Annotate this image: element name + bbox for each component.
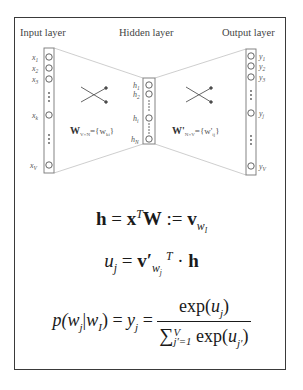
label-yj: yj xyxy=(258,109,265,119)
label-hi: hi xyxy=(133,114,139,124)
softmax-fraction: exp(uj) ∑Vj′=1 exp(uj′) xyxy=(157,296,250,348)
equation-score: uj = v′wjT · h xyxy=(14,250,289,277)
output-node xyxy=(248,110,254,116)
softmax-denominator: ∑Vj′=1 exp(uj′) xyxy=(157,321,250,349)
label-xk: xk xyxy=(31,111,39,121)
input-layer-column: x1 x2 x3 xk xV xyxy=(29,48,54,173)
output-node xyxy=(248,63,254,69)
cross-connection-icon-right xyxy=(186,87,212,104)
input-node xyxy=(46,65,52,71)
output-node xyxy=(248,74,254,80)
label-x2: x2 xyxy=(31,64,39,74)
label-yV: yV xyxy=(258,162,267,172)
label-y1: y1 xyxy=(258,52,266,62)
hidden-node xyxy=(146,115,152,121)
hidden-node xyxy=(146,91,152,97)
input-node xyxy=(46,76,52,82)
network-diagram: x1 x2 x3 xk xV h1 h2 hi hN xyxy=(0,0,303,200)
output-node xyxy=(248,163,254,169)
output-node xyxy=(248,53,254,59)
equation-softmax: p(wj|wI) = yj = exp(uj) ∑Vj′=1 exp(uj′) xyxy=(14,296,289,348)
label-hN: hN xyxy=(131,135,139,145)
label-x1: x1 xyxy=(31,53,39,63)
weight-matrix-hidden-output-label: W'N×V={w'ij} xyxy=(172,125,219,137)
softmax-numerator: exp(uj) xyxy=(157,296,250,321)
label-xV: xV xyxy=(29,161,38,171)
label-x3: x3 xyxy=(31,75,39,85)
label-y2: y2 xyxy=(258,62,266,72)
hidden-node xyxy=(146,136,152,142)
input-node xyxy=(46,112,52,118)
weight-matrix-input-hidden-label: WV×N={wki} xyxy=(70,125,114,137)
input-node xyxy=(46,54,52,60)
cross-connection-icon-left xyxy=(81,87,107,104)
label-y3: y3 xyxy=(258,73,266,83)
output-layer-column: y1 y2 y3 yj yV xyxy=(246,49,267,175)
hidden-node xyxy=(146,82,152,88)
label-h2: h2 xyxy=(133,90,140,100)
hidden-layer-column: h1 h2 hi hN xyxy=(131,78,155,145)
equation-hidden-layer: h = xTW := vwI xyxy=(14,208,289,235)
input-node xyxy=(46,162,52,168)
